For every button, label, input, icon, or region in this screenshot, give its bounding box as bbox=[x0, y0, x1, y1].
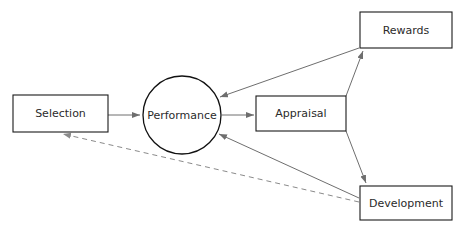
appraisal-label: Appraisal bbox=[275, 107, 326, 120]
performance-label: Performance bbox=[147, 109, 217, 122]
edge-appraisal-to-development bbox=[346, 131, 366, 183]
node-performance[interactable]: Performance bbox=[143, 76, 221, 154]
node-appraisal[interactable]: Appraisal bbox=[256, 96, 346, 131]
edge-rewards-to-performance bbox=[220, 48, 359, 97]
edge-development-to-selection bbox=[63, 134, 359, 202]
edge-appraisal-to-rewards bbox=[346, 51, 363, 96]
node-rewards[interactable]: Rewards bbox=[360, 12, 452, 48]
node-development[interactable]: Development bbox=[360, 186, 452, 220]
rewards-label: Rewards bbox=[383, 24, 430, 37]
selection-label: Selection bbox=[35, 107, 86, 120]
diagram-canvas: Selection Performance Appraisal Rewards … bbox=[0, 0, 462, 229]
node-selection[interactable]: Selection bbox=[13, 95, 108, 132]
development-label: Development bbox=[369, 197, 444, 210]
edge-development-to-performance bbox=[219, 134, 359, 198]
diagram-svg: Selection Performance Appraisal Rewards … bbox=[0, 0, 462, 229]
